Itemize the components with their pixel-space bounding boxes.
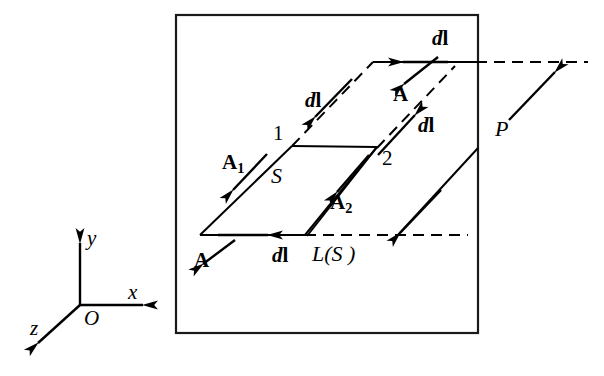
axis-label-y: y	[87, 228, 96, 249]
label-A2: A2	[330, 192, 352, 215]
arrow-A2	[337, 155, 369, 192]
axis-label-z: z	[30, 318, 38, 339]
axis-z-line	[38, 305, 80, 343]
axis-label-origin: O	[84, 308, 99, 329]
label-vertex-1: 1	[273, 123, 284, 144]
label-surface-S: S	[271, 165, 282, 187]
edge-S-top	[292, 146, 377, 147]
label-dl-top: dl	[432, 28, 448, 49]
label-dl-upper-left: dl	[305, 90, 321, 111]
label-boundary-L: L(S )	[312, 243, 355, 265]
label-vertex-2: 2	[382, 148, 393, 169]
label-A-top: A	[393, 84, 408, 105]
arrow-right-diagonal	[400, 190, 441, 233]
label-dl-middle: dl	[418, 115, 434, 136]
label-plane-P: P	[495, 118, 508, 140]
edge-dashed-back-right	[377, 66, 455, 148]
arrow-plane-P	[509, 72, 555, 120]
label-A1: A1	[222, 152, 244, 175]
figure-canvas: dl A dl 1 A1 S 2 A2 dl A dl L(S ) P y x …	[0, 0, 604, 376]
axis-label-x: x	[128, 282, 137, 303]
label-A-bottom: A	[194, 250, 209, 271]
edge-S-left	[200, 146, 292, 235]
label-dl-bottom: dl	[272, 245, 288, 266]
